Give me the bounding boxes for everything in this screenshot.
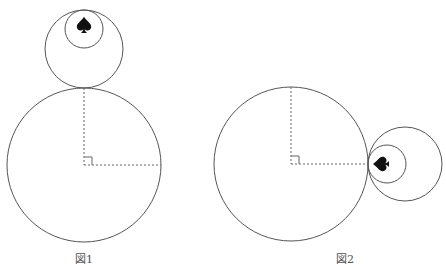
fig2-right-angle-marker xyxy=(291,156,299,164)
fig2-caption: 図2 xyxy=(336,250,354,266)
figure-1 xyxy=(7,10,161,242)
fig1-caption: 図1 xyxy=(75,250,93,266)
fig1-right-angle-marker xyxy=(84,157,92,165)
figure-2 xyxy=(214,87,442,241)
fig2-spade-icon xyxy=(373,157,389,171)
diagram-canvas xyxy=(0,0,446,272)
fig1-spade-icon xyxy=(77,17,91,33)
